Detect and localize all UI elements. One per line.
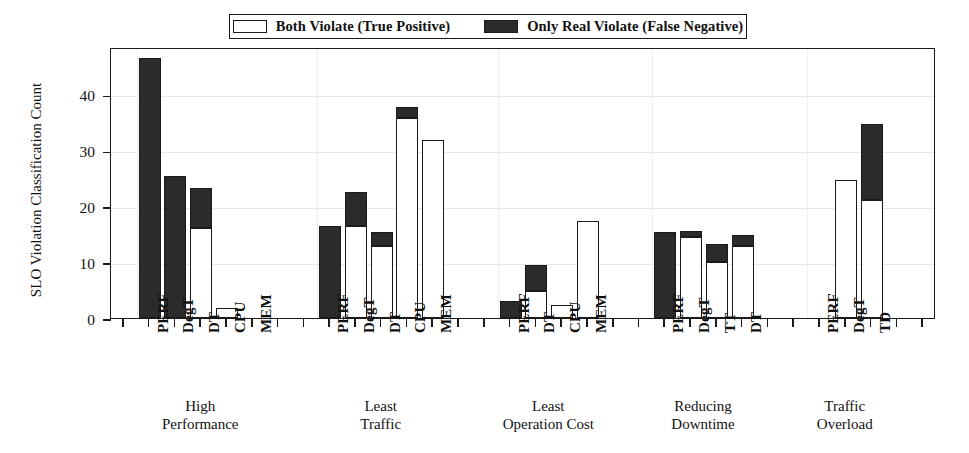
- gridline-vertical: [652, 49, 653, 318]
- bar-stack[interactable]: [396, 107, 418, 318]
- group-title: Least Traffic: [291, 397, 471, 434]
- x-axis-tick: [509, 319, 511, 327]
- x-axis-tick-label: CPU: [567, 302, 584, 333]
- x-axis-tick: [199, 319, 201, 327]
- x-axis-tick: [148, 319, 150, 327]
- x-axis-tick-label: DT: [387, 312, 404, 333]
- x-axis-tick: [122, 319, 124, 327]
- legend-label-true-positive: Both Violate (True Positive): [276, 18, 451, 35]
- x-axis-tick-label: DegT: [851, 297, 868, 333]
- x-axis-tick: [277, 319, 279, 327]
- bar-stack[interactable]: [732, 235, 754, 318]
- legend-swatch-false-negative: [484, 20, 518, 33]
- x-axis-tick-label: MEM: [438, 294, 455, 333]
- x-axis-tick: [328, 319, 330, 327]
- gridline-horizontal: [111, 96, 934, 97]
- x-axis-tick: [921, 319, 923, 327]
- x-axis-tick: [844, 319, 846, 327]
- x-axis-tick: [535, 319, 537, 327]
- y-axis-tick: [103, 207, 111, 209]
- x-axis-tick-label: CPU: [412, 302, 429, 333]
- x-axis-tick-label: MEM: [593, 294, 610, 333]
- chart-legend: Both Violate (True Positive) Only Real V…: [229, 14, 747, 39]
- x-axis-tick-label: TT: [722, 313, 739, 333]
- y-axis-tick-label: 30: [55, 144, 95, 160]
- y-axis-tick-label: 40: [55, 88, 95, 104]
- x-axis-tick: [663, 319, 665, 327]
- bar-stack[interactable]: [422, 140, 444, 318]
- y-axis-tick: [103, 152, 111, 154]
- gridline-horizontal: [111, 264, 934, 265]
- bar-segment-false-negative[interactable]: [345, 192, 367, 226]
- bar-segment-false-negative[interactable]: [371, 232, 393, 247]
- x-axis-tick: [431, 319, 433, 327]
- bar-segment-false-negative[interactable]: [396, 107, 418, 118]
- bar-segment-true-positive[interactable]: [396, 118, 418, 318]
- group-title: High Performance: [110, 397, 290, 434]
- x-axis-tick: [792, 319, 794, 327]
- x-axis-tick: [380, 319, 382, 327]
- x-axis-area: PERFDegTDTCPUMEMPERFDegTDTCPUMEMPERFDTCP…: [110, 319, 935, 453]
- legend-entry-false-negative: Only Real Violate (False Negative): [484, 18, 743, 35]
- bar-segment-false-negative[interactable]: [861, 124, 883, 200]
- group-title: Least Operation Cost: [458, 397, 638, 434]
- bar-segment-true-positive[interactable]: [732, 246, 754, 318]
- x-axis-tick: [715, 319, 717, 327]
- x-axis-tick: [586, 319, 588, 327]
- bar-segment-false-negative[interactable]: [732, 235, 754, 246]
- x-axis-tick: [560, 319, 562, 327]
- bar-stack[interactable]: [861, 124, 883, 318]
- x-axis-tick: [457, 319, 459, 327]
- x-axis-tick-label: PERF: [155, 293, 172, 333]
- x-axis-tick-label: PERF: [335, 293, 352, 333]
- x-axis-tick-label: DT: [748, 312, 765, 333]
- bar-segment-false-negative[interactable]: [190, 188, 212, 228]
- x-axis-tick: [638, 319, 640, 327]
- gridline-vertical: [498, 49, 499, 318]
- x-axis-tick-label: PERF: [670, 293, 687, 333]
- y-axis-tick: [103, 96, 111, 98]
- gridline-horizontal: [111, 152, 934, 153]
- legend-label-false-negative: Only Real Violate (False Negative): [527, 18, 743, 35]
- x-axis-tick-label: DT: [206, 312, 223, 333]
- x-axis-tick: [612, 319, 614, 327]
- bar-segment-false-negative[interactable]: [706, 244, 728, 262]
- x-axis-tick-label: DT: [541, 312, 558, 333]
- bar-segment-true-positive[interactable]: [422, 140, 444, 318]
- y-axis-tick: [103, 263, 111, 265]
- y-axis-tick-label: 10: [55, 256, 95, 272]
- x-axis-tick-label: CPU: [232, 302, 249, 333]
- x-axis-tick: [406, 319, 408, 327]
- x-axis-tick-label: PERF: [516, 293, 533, 333]
- x-axis-tick: [741, 319, 743, 327]
- gridline-vertical: [317, 49, 318, 318]
- legend-entry-true-positive: Both Violate (True Positive): [233, 18, 451, 35]
- y-axis-tick-label: 0: [55, 312, 95, 328]
- x-axis-tick: [354, 319, 356, 327]
- bar-stack[interactable]: [139, 58, 161, 318]
- x-axis-tick: [251, 319, 253, 327]
- x-axis-tick-label: PERF: [825, 293, 842, 333]
- x-axis-tick: [767, 319, 769, 327]
- x-axis-tick-label: DegT: [696, 297, 713, 333]
- legend-swatch-true-positive: [233, 20, 267, 33]
- x-axis-tick: [896, 319, 898, 327]
- x-axis-tick: [174, 319, 176, 327]
- x-axis-tick: [303, 319, 305, 327]
- x-axis-tick-label: TD: [877, 312, 894, 333]
- x-axis-tick: [689, 319, 691, 327]
- x-axis-tick-label: DegT: [361, 297, 378, 333]
- chart-figure: Both Violate (True Positive) Only Real V…: [0, 0, 969, 453]
- y-axis-tick-label: 20: [55, 200, 95, 216]
- gridline-vertical: [807, 49, 808, 318]
- bar-segment-false-negative[interactable]: [525, 265, 547, 291]
- y-axis-title: SLO Violation Classification Count: [28, 40, 50, 340]
- bar-segment-false-negative[interactable]: [139, 58, 161, 318]
- x-axis-tick: [870, 319, 872, 327]
- plot-inner: [111, 49, 934, 318]
- x-axis-tick: [818, 319, 820, 327]
- x-axis-tick: [483, 319, 485, 327]
- plot-area: 010203040: [110, 48, 935, 319]
- x-axis-tick-label: DegT: [180, 297, 197, 333]
- bar-segment-false-negative[interactable]: [680, 231, 702, 237]
